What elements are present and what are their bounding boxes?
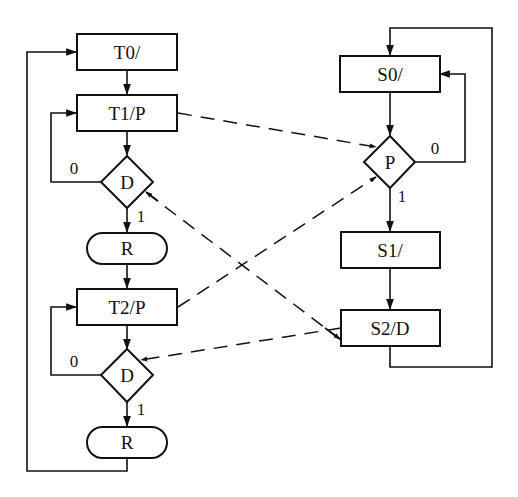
node-t2: T2/P	[77, 289, 177, 325]
r1-label: R	[121, 238, 134, 259]
d2-yes-label: 1	[137, 400, 146, 419]
s2-label: S2/D	[370, 318, 409, 339]
node-t0: T0/	[77, 34, 177, 70]
d1-yes-label: 1	[137, 207, 146, 226]
t1-label: T1/P	[109, 103, 146, 124]
r2-label: R	[121, 432, 134, 453]
d2-label: D	[120, 365, 134, 386]
t2-label: T2/P	[109, 297, 146, 318]
dashed-edge-s2-d2	[141, 328, 341, 360]
flowchart-diagram: T0/ T1/P D 0 1 R T2/P D 0 1	[0, 0, 518, 497]
d1-no-label: 0	[70, 159, 79, 178]
dashed-edge-s2-d1-head-d1	[146, 192, 158, 201]
p-yes-label: 1	[398, 187, 407, 206]
dashed-edge-t1-p	[178, 113, 376, 147]
d2-no-label: 0	[70, 352, 79, 371]
node-d2: D	[101, 349, 153, 402]
node-t1: T1/P	[77, 95, 177, 131]
s0-label: S0/	[377, 64, 403, 85]
left-flow: T0/ T1/P D 0 1 R T2/P D 0 1	[27, 34, 177, 471]
p-no-label: 0	[431, 139, 440, 158]
node-s0: S0/	[340, 56, 440, 92]
s1-label: S1/	[377, 240, 403, 261]
right-flow: S0/ P 0 1 S1/ S2/D	[340, 28, 492, 367]
t0-label: T0/	[114, 42, 141, 63]
node-s2: S2/D	[341, 310, 440, 346]
d1-label: D	[120, 172, 134, 193]
node-r1: R	[87, 233, 167, 264]
p-label: P	[385, 152, 396, 173]
node-d1: D	[101, 156, 153, 208]
node-s1: S1/	[341, 232, 440, 268]
node-r2: R	[87, 427, 167, 458]
